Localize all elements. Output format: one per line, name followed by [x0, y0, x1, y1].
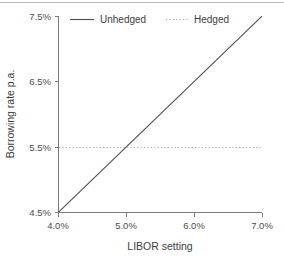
x-tick-label-7.0: 7.0%	[251, 220, 273, 231]
y-tick-label-4.5: 4.5%	[29, 207, 51, 218]
y-tick-label-7.5: 7.5%	[29, 11, 51, 22]
x-tick-labels: 4.0% 5.0% 6.0% 7.0%	[47, 220, 273, 231]
x-axis-ticks	[59, 213, 263, 217]
series-line-unhedged	[59, 16, 262, 212]
y-tick-labels: 7.5% 6.5% 5.5% 4.5%	[29, 11, 51, 218]
y-axis-ticks	[55, 17, 59, 213]
y-tick-label-6.5: 6.5%	[29, 76, 51, 87]
x-axis-title: LIBOR setting	[127, 240, 193, 252]
y-axis-title: Borrowing rate p.a.	[4, 70, 16, 159]
borrowing-rate-line-chart: 7.5% 6.5% 5.5% 4.5% 4.0% 5.0% 6.0% 7.0% …	[0, 0, 284, 259]
x-tick-label-5.0: 5.0%	[115, 220, 137, 231]
chart-legend: Unhedged Hedged	[70, 14, 229, 25]
legend-label-unhedged: Unhedged	[100, 14, 146, 25]
x-tick-label-4.0: 4.0%	[47, 220, 69, 231]
x-tick-label-6.0: 6.0%	[183, 220, 205, 231]
y-tick-label-5.5: 5.5%	[29, 142, 51, 153]
chart-figure: 7.5% 6.5% 5.5% 4.5% 4.0% 5.0% 6.0% 7.0% …	[0, 0, 284, 259]
legend-label-hedged: Hedged	[194, 14, 229, 25]
